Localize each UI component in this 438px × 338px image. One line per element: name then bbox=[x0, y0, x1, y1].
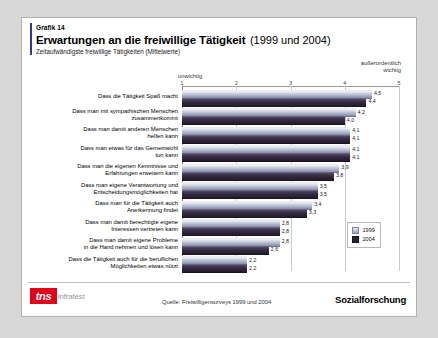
category-label-line: helfen kann bbox=[26, 133, 178, 140]
scale-high-label-line2: wichtig bbox=[351, 67, 401, 74]
chart-legend: 19992004 bbox=[347, 222, 380, 248]
source-note: Quelle: Freiwilligensurveys 1999 und 200… bbox=[162, 299, 271, 305]
category-label-line: Interessen vertreten kann bbox=[26, 226, 178, 233]
legend-swatch-1999 bbox=[352, 227, 359, 234]
bar-value-label: 4,1 bbox=[352, 146, 359, 153]
bar-2004 bbox=[182, 135, 350, 144]
scale-high-label-line1: außerordentlich bbox=[351, 60, 401, 67]
bar-2004 bbox=[182, 264, 247, 273]
legend-item-1999: 1999 bbox=[352, 226, 374, 235]
category-label-line: Dass die Tätigkeit auch für die beruflic… bbox=[26, 256, 178, 263]
bar-value-label: 4,5 bbox=[374, 90, 381, 97]
category-label: Dass man die eigenen Kenntnisse undErfah… bbox=[26, 163, 178, 178]
bar-value-label: 2,2 bbox=[249, 257, 256, 264]
bar-2004 bbox=[182, 209, 307, 218]
category-label: Dass man eigene Verantwortung undEntsche… bbox=[26, 182, 178, 197]
category-label-line: Dass man für die Tätigkeit auch bbox=[26, 200, 178, 207]
category-label: Dass die Tätigkeit Spaß macht bbox=[26, 93, 178, 100]
page-title-main: Erwartungen an die freiwillige Tätigkeit bbox=[36, 34, 245, 46]
header-accent-rule bbox=[30, 23, 32, 55]
bar-value-label: 2,8 bbox=[282, 238, 289, 245]
category-label-line: Anerkennung findet bbox=[26, 207, 178, 214]
legend-label-2004: 2004 bbox=[362, 236, 374, 242]
bar-value-label: 4,1 bbox=[352, 154, 359, 161]
logo-mark: tns bbox=[30, 288, 57, 304]
bar-chart: unwichtig außerordentlich wichtig 12345 … bbox=[22, 60, 418, 282]
category-label-line: Dass man etwas für das Gemeinwohl bbox=[26, 145, 178, 152]
bar-value-label: 3,3 bbox=[309, 209, 316, 216]
category-label: Dass man etwas für das Gemeinwohltun kan… bbox=[26, 145, 178, 160]
bar-value-label: 4,1 bbox=[352, 127, 359, 134]
category-label-line: Entscheidungsmöglichkeiten hat bbox=[26, 189, 178, 196]
category-label-line: tun kann bbox=[26, 152, 178, 159]
bar-value-label: 2,8 bbox=[282, 220, 289, 227]
legend-label-1999: 1999 bbox=[362, 227, 374, 233]
chart-row: Dass die Tätigkeit auch für die beruflic… bbox=[22, 255, 418, 274]
category-label-line: Dass man eigene Verantwortung und bbox=[26, 182, 178, 189]
chart-row: Dass man eigene Verantwortung undEntsche… bbox=[22, 181, 418, 200]
chart-row: Dass man mit sympathischen Menschenzusam… bbox=[22, 107, 418, 126]
category-label-line: Dass man damit eigene Probleme bbox=[26, 237, 178, 244]
bar-2004 bbox=[182, 116, 345, 125]
page-subtitle: Zeitaufwändigste freiwillige Tätigkeiten… bbox=[36, 47, 416, 57]
page-title: Erwartungen an die freiwillige Tätigkeit… bbox=[36, 32, 416, 47]
bar-value-label: 2,6 bbox=[271, 246, 278, 253]
bar-value-label: 3,4 bbox=[314, 201, 321, 208]
scale-low-label: unwichtig bbox=[178, 73, 202, 79]
bar-value-label: 4,0 bbox=[347, 117, 354, 124]
category-label: Dass die Tätigkeit auch für die beruflic… bbox=[26, 256, 178, 271]
logo-wordmark: infratest bbox=[58, 290, 85, 304]
bar-value-label: 2,8 bbox=[282, 228, 289, 235]
category-label: Dass man damit eigene Problemein die Han… bbox=[26, 237, 178, 252]
chart-row: Dass man damit anderen Menschenhelfen ka… bbox=[22, 125, 418, 144]
category-label-line: Dass man damit berechtigte eigene bbox=[26, 219, 178, 226]
bar-2004 bbox=[182, 246, 269, 255]
bar-2004 bbox=[182, 190, 318, 199]
category-label: Dass man damit berechtigte eigeneInteres… bbox=[26, 219, 178, 234]
chart-row: Dass man die eigenen Kenntnisse undErfah… bbox=[22, 162, 418, 181]
chart-row: Dass man etwas für das Gemeinwohltun kan… bbox=[22, 144, 418, 163]
footer-divider bbox=[28, 282, 410, 283]
chart-footer: tns infratest Quelle: Freiwilligensurvey… bbox=[22, 282, 416, 316]
category-label: Dass man mit sympathischen Menschenzusam… bbox=[26, 108, 178, 123]
category-label-line: in die Hand nehmen und lösen kann bbox=[26, 244, 178, 251]
category-label-line: Dass man damit anderen Menschen bbox=[26, 126, 178, 133]
category-label-line: Erfahrungen erweitern kann bbox=[26, 170, 178, 177]
chart-top-axis: unwichtig außerordentlich wichtig 12345 bbox=[22, 60, 418, 86]
bar-2004 bbox=[182, 227, 280, 236]
bar-value-label: 4,4 bbox=[368, 98, 375, 105]
bar-value-label: 3,9 bbox=[341, 164, 348, 171]
category-label-line: zusammenkommt bbox=[26, 115, 178, 122]
category-label-line: Dass die Tätigkeit Spaß macht bbox=[26, 93, 178, 100]
legend-item-2004: 2004 bbox=[352, 235, 374, 244]
bar-value-label: 2,2 bbox=[249, 265, 256, 272]
bar-2004 bbox=[182, 98, 366, 107]
bar-value-label: 4,2 bbox=[358, 109, 365, 116]
brand-label: Sozialforschung bbox=[335, 294, 406, 305]
bar-value-label: 3,5 bbox=[320, 191, 327, 198]
chart-header: Grafik 14 Erwartungen an die freiwillige… bbox=[22, 18, 416, 59]
category-label: Dass man damit anderen Menschenhelfen ka… bbox=[26, 126, 178, 141]
bar-value-label: 4,1 bbox=[352, 135, 359, 142]
scale-high-label: außerordentlich wichtig bbox=[351, 60, 401, 74]
chart-row: Dass die Tätigkeit Spaß macht4,54,4 bbox=[22, 88, 418, 107]
bar-value-label: 3,8 bbox=[336, 172, 343, 179]
bar-2004 bbox=[182, 172, 334, 181]
chart-row: Dass man für die Tätigkeit auchAnerkennu… bbox=[22, 199, 418, 218]
bar-value-label: 3,5 bbox=[320, 183, 327, 190]
category-label-line: Dass man mit sympathischen Menschen bbox=[26, 108, 178, 115]
category-label: Dass man für die Tätigkeit auchAnerkennu… bbox=[26, 200, 178, 215]
tns-infratest-logo: tns infratest bbox=[30, 288, 85, 304]
slide-canvas: Grafik 14 Erwartungen an die freiwillige… bbox=[21, 17, 417, 317]
bar-2004 bbox=[182, 153, 350, 162]
graphik-number: Grafik 14 bbox=[36, 23, 416, 32]
page-title-years: (1999 und 2004) bbox=[250, 34, 331, 46]
category-label-line: Dass man die eigenen Kenntnisse und bbox=[26, 163, 178, 170]
legend-swatch-2004 bbox=[352, 236, 359, 243]
category-label-line: Möglichkeiten etwas nützt bbox=[26, 263, 178, 270]
